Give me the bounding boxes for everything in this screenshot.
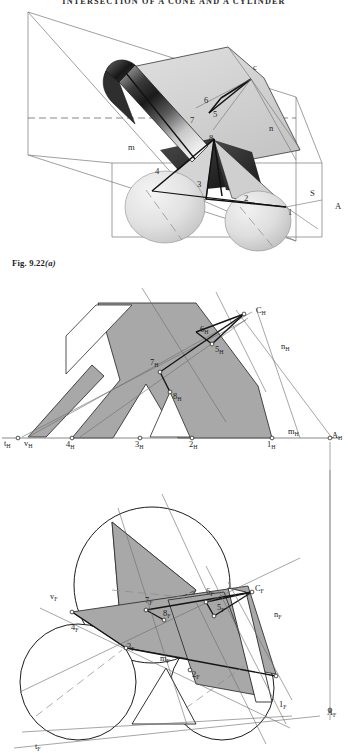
point-label-1: 1 — [288, 207, 292, 217]
point-label-3: 3 — [197, 179, 201, 189]
textbook-figure-page: INTERSECTION OF A CONE AND A CYLINDER — [0, 0, 348, 753]
cone-right-base — [225, 191, 291, 251]
pictorial-3d-svg: c6578nm4321SA — [0, 0, 348, 262]
point-label-tf: tF — [35, 742, 41, 752]
point-label-3h: 3H — [135, 440, 144, 450]
point-label-ah: AH — [332, 431, 343, 441]
caption-prefix: Fig. 9.22 — [12, 258, 45, 268]
point-label-af: AF — [327, 708, 337, 718]
point-label-1f: 1F — [279, 700, 287, 710]
point-label-cf: CF — [255, 584, 265, 594]
cone-left-base — [125, 171, 205, 243]
point-label-mh: mH — [288, 427, 300, 437]
point-label-ch: CH — [256, 306, 267, 316]
point-label-6: 6 — [204, 95, 209, 105]
point-label-s: S — [310, 188, 315, 198]
point-label-vh: vH — [24, 439, 33, 449]
point-label-nh: nH — [281, 342, 290, 352]
point-label-a: A — [335, 201, 342, 211]
horizontal-projection-svg: tHvH4H3H2H1HmHAHCH6H5H7H8HnH — [0, 280, 348, 455]
point-label-8: 8 — [209, 133, 213, 143]
point-label-7: 7 — [190, 115, 195, 125]
point-label-2: 2 — [244, 193, 248, 203]
point-label-m: m — [128, 142, 135, 152]
point-label-5: 5 — [213, 109, 217, 119]
point-label-1h: 1H — [267, 440, 276, 450]
point-label-2h: 2H — [189, 440, 198, 450]
point-label-c: c — [253, 62, 257, 72]
frontal-projection-svg: vF7F6FCF5F4F8F3FmFnF2F1FAFtF — [0, 470, 348, 753]
point-label-4: 4 — [155, 166, 160, 176]
caption-suffix: (a) — [45, 258, 56, 268]
point-label-n: n — [269, 123, 274, 133]
point-label-th: tH — [4, 439, 11, 449]
figure-caption: Fig. 9.22(a) — [12, 258, 56, 268]
point-label-vf: vF — [50, 592, 58, 602]
point-label-4h: 4H — [66, 440, 75, 450]
point-label-nf: nF — [274, 610, 282, 620]
